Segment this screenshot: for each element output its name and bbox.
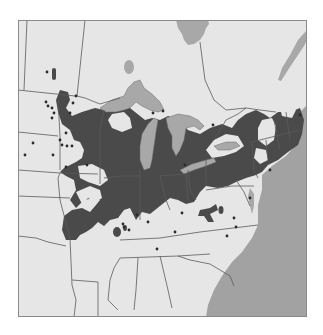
occurrence-point [53,112,56,115]
occurrence-point [51,117,54,120]
occurrence-point [147,221,150,224]
occurrence-point [269,169,272,172]
occurrence-point [66,145,69,148]
occurrence-point [65,132,68,135]
occurrence-point [69,112,72,115]
range-patch-arkansas [113,227,121,237]
lake-nipigon [124,60,134,74]
occurrence-point [249,197,252,200]
occurrence-point [233,217,236,220]
occurrence-point [75,95,78,98]
range-map [18,20,307,317]
occurrence-point [184,164,187,167]
occurrence-point [72,102,75,105]
occurrence-point [51,107,54,110]
occurrence-point [122,223,125,226]
occurrence-point [59,139,62,142]
occurrence-point [152,112,155,115]
occurrence-point [45,101,48,104]
occurrence-point [52,154,55,157]
occurrence-point [32,142,35,145]
occurrence-point [212,124,215,127]
occurrence-point [235,226,238,229]
occurrence-point [226,235,229,238]
occurrence-point [46,71,49,74]
occurrence-point [128,229,131,232]
occurrence-point [71,145,74,148]
occurrence-point [162,110,165,113]
map-container [18,20,307,317]
occurrence-point [181,212,184,215]
occurrence-point [136,214,139,217]
occurrence-point [123,226,126,229]
occurrence-point [156,248,159,251]
lake-of-the-woods [52,68,56,80]
occurrence-point [86,164,89,167]
occurrence-point [61,144,64,147]
occurrence-point [24,154,27,157]
occurrence-point [65,166,68,169]
occurrence-point [299,114,302,117]
occurrence-point [174,231,177,234]
range-patch-virginia-2 [219,206,224,214]
occurrence-point [47,105,50,108]
